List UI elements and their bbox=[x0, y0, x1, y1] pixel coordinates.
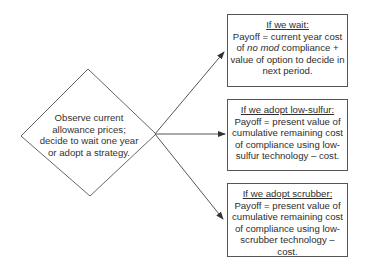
decision-node-label: Observe current allowance prices; decide… bbox=[38, 112, 140, 158]
outcome-body-wait-emphasis: no mod bbox=[247, 42, 279, 53]
outcome-body-wait: Payoff = current year cost of no mod com… bbox=[230, 31, 345, 77]
outcome-box-low-sulfur: If we adopt low-sulfur: Payoff = present… bbox=[227, 99, 348, 171]
outcome-title-scrubber: If we adopt scrubber: bbox=[230, 188, 345, 200]
outcome-body-low-sulfur: Payoff = present value of cumulative rem… bbox=[230, 116, 345, 162]
outcome-title-low-sulfur: If we adopt low-sulfur: bbox=[230, 104, 345, 116]
outcome-box-wait: If we wait: Payoff = current year cost o… bbox=[227, 14, 348, 87]
arrow-to-scrubber bbox=[155, 134, 223, 219]
outcome-body-scrubber: Payoff = present value of cumulative rem… bbox=[230, 200, 345, 258]
outcome-box-scrubber: If we adopt scrubber: Payoff = present v… bbox=[227, 183, 348, 257]
arrow-to-wait bbox=[155, 52, 224, 134]
outcome-title-wait: If we wait: bbox=[230, 19, 345, 31]
